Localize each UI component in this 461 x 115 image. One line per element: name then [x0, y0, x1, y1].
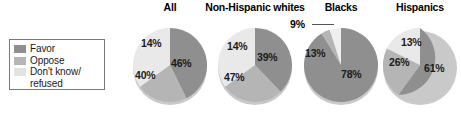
- pie-slice-label-hispanics-favor: 61%: [424, 62, 444, 74]
- legend-label-dont-know-line2: refused: [30, 78, 104, 90]
- pie-leader-line-blacks: [312, 24, 334, 25]
- chart-legend: Favor Oppose Don't know/ refused: [9, 39, 105, 90]
- pie-slice-label-nhw-favor: 39%: [257, 51, 277, 63]
- legend-item-favor: Favor: [14, 43, 104, 55]
- pie-svg-non-hispanic-whites: [216, 26, 294, 106]
- pie-chart-hispanics: Hispanics 61% 26% 13%: [379, 0, 461, 115]
- pie-slice-label-blacks-oppose: 13%: [305, 47, 325, 59]
- pie-title-all: All: [124, 1, 216, 13]
- pie-graphic-non-hispanic-whites: [216, 26, 294, 106]
- legend-swatch-dont-know: [14, 68, 26, 76]
- pie-title-hispanics: Hispanics: [379, 1, 461, 13]
- pie-slice-label-blacks-favor: 78%: [341, 68, 361, 80]
- pie-slice-label-nhw-dontknow: 14%: [227, 40, 247, 52]
- pie-slice-label-all-oppose: 40%: [135, 69, 155, 81]
- pie-svg-blacks: [302, 26, 380, 106]
- legend-label-favor: Favor: [30, 43, 55, 55]
- pie-slice-label-nhw-oppose: 47%: [224, 71, 244, 83]
- pie-slice-label-hispanics-dontknow: 13%: [401, 36, 421, 48]
- pie-slice-label-all-favor: 46%: [171, 57, 191, 69]
- pie-chart-blacks: Blacks 78% 13% 9%: [299, 0, 383, 115]
- legend-label-dont-know: Don't know/: [30, 66, 81, 78]
- pie-chart-figure: Favor Oppose Don't know/ refused All 46%: [0, 0, 461, 115]
- pie-slice-label-all-dontknow: 14%: [141, 37, 161, 49]
- pie-title-blacks: Blacks: [299, 1, 383, 13]
- legend-label-oppose: Oppose: [30, 55, 64, 67]
- pie-slice-label-hispanics-oppose: 26%: [389, 56, 409, 68]
- pie-title-non-hispanic-whites: Non-Hispanic whites: [205, 1, 305, 13]
- legend-item-dont-know: Don't know/: [14, 66, 104, 78]
- legend-item-oppose: Oppose: [14, 55, 104, 67]
- pie-graphic-blacks: [302, 26, 380, 106]
- pie-chart-all: All 46% 40% 14%: [124, 0, 216, 115]
- legend-swatch-favor: [14, 45, 26, 53]
- legend-swatch-oppose: [14, 57, 26, 65]
- pie-slice-label-blacks-dontknow: 9%: [290, 18, 305, 30]
